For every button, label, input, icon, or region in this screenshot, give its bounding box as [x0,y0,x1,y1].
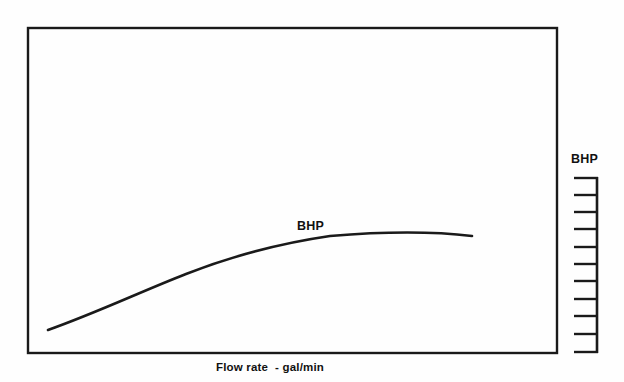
plot-frame [28,28,557,353]
figure-canvas [0,0,624,382]
chart-screenshot: Flow rate - gal/min BHP BHP [0,0,624,382]
x-axis-label: Flow rate - gal/min [0,361,540,373]
bhp-scale-ticks [574,178,598,352]
bhp-curve [48,233,472,330]
right-scale-label-bhp: BHP [571,152,598,166]
series-label-bhp: BHP [297,219,324,233]
